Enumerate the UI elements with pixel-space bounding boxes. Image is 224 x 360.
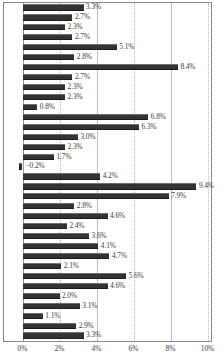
bar <box>23 183 197 189</box>
bar-value-label: 4.2% <box>103 171 118 181</box>
bar-value-label: 8.4% <box>180 62 195 72</box>
bar-row: 4.6% <box>4 212 211 222</box>
bar-value-label: 2.3% <box>68 92 83 102</box>
bar-value-label: 1.7% <box>56 152 71 162</box>
bar-value-label: 6.8% <box>151 112 166 122</box>
x-tick-label: 10% <box>201 344 215 353</box>
bar-value-label: 7.9% <box>171 191 186 201</box>
bar <box>23 134 79 140</box>
bar-row: 3.3% <box>4 3 211 13</box>
bar-value-label: 0.8% <box>40 102 55 112</box>
x-tick-label: 2% <box>55 344 65 353</box>
bar-row: 3.0% <box>4 132 211 142</box>
bar <box>23 64 178 70</box>
bar <box>23 263 62 269</box>
bar <box>23 193 169 199</box>
bar-rows: 3.3%2.7%2.3%2.7%5.1%2.8%8.4%2.7%2.3%2.3%… <box>4 3 211 341</box>
bar <box>23 4 84 10</box>
bar-value-label: 2.3% <box>68 22 83 32</box>
bar-value-label: 2.7% <box>75 12 90 22</box>
bar <box>23 14 73 20</box>
bar <box>23 213 108 219</box>
bar-row: 5.6% <box>4 271 211 281</box>
bar-row: 2.3% <box>4 142 211 152</box>
bar-value-label: 5.6% <box>129 271 144 281</box>
bar-row: 4.1% <box>4 242 211 252</box>
bar-row: 2.3% <box>4 23 211 33</box>
bar <box>23 94 66 100</box>
bar <box>23 173 101 179</box>
bar <box>23 332 84 338</box>
bar-value-label: 2.8% <box>77 201 92 211</box>
bar-value-label: 2.4% <box>69 221 84 231</box>
bar <box>23 114 149 120</box>
bar-value-label: 2.7% <box>75 32 90 42</box>
x-tick-label: 4% <box>92 344 102 353</box>
bar <box>23 223 67 229</box>
bar <box>23 84 66 90</box>
x-axis-tick-labels: 0%2%4%6%8%10% <box>0 344 224 360</box>
bar-row: 8.4% <box>4 63 211 73</box>
bar-value-label: 4.6% <box>110 281 125 291</box>
bar-row: 2.1% <box>4 261 211 271</box>
bar <box>23 243 99 249</box>
bar-row: 2.3% <box>4 92 211 102</box>
bar-value-label: 2.3% <box>68 82 83 92</box>
bar-value-label: 1.1% <box>45 311 60 321</box>
bar-value-label: 2.9% <box>79 321 94 331</box>
horizontal-bar-chart: 3.3%2.7%2.3%2.7%5.1%2.8%8.4%2.7%2.3%2.3%… <box>0 0 224 360</box>
bar <box>23 104 38 110</box>
bar-value-label: 3.1% <box>82 301 97 311</box>
bar <box>23 34 73 40</box>
bar-value-label: 2.3% <box>68 142 83 152</box>
bar-row: 2.8% <box>4 202 211 212</box>
bar-row: 2.3% <box>4 83 211 93</box>
bar-row: 2.4% <box>4 222 211 232</box>
bar-value-label: 3.0% <box>81 132 96 142</box>
bar-value-label: 9.4% <box>199 181 214 191</box>
bar <box>23 24 66 30</box>
bar <box>23 144 66 150</box>
bar-row: 3.3% <box>4 331 211 341</box>
bar-row: 0.8% <box>4 102 211 112</box>
bar-value-label: 2.0% <box>62 291 77 301</box>
bar-row: 2.7% <box>4 13 211 23</box>
bar-value-label: 6.3% <box>142 122 157 132</box>
bar <box>23 203 75 209</box>
bar <box>23 323 77 329</box>
bar-value-label: 3.6% <box>92 231 107 241</box>
bar-row: 6.3% <box>4 122 211 132</box>
bar-value-label: 2.8% <box>77 52 92 62</box>
bar-value-label: 5.1% <box>119 42 134 52</box>
bar-row: 6.8% <box>4 112 211 122</box>
bar <box>23 273 127 279</box>
plot-area: 3.3%2.7%2.3%2.7%5.1%2.8%8.4%2.7%2.3%2.3%… <box>3 2 212 342</box>
bar <box>19 163 23 169</box>
bar <box>23 54 75 60</box>
bar <box>23 44 117 50</box>
bar-row: 2.7% <box>4 33 211 43</box>
bar-row: 2.0% <box>4 291 211 301</box>
bar <box>23 313 43 319</box>
bar <box>23 253 110 259</box>
bar <box>23 283 108 289</box>
bar <box>23 293 60 299</box>
bar-row: 2.9% <box>4 321 211 331</box>
bar-row: 4.2% <box>4 172 211 182</box>
x-tick-label: 6% <box>129 344 139 353</box>
bar-value-label: 4.6% <box>110 211 125 221</box>
bar <box>23 233 90 239</box>
bar <box>23 74 73 80</box>
bar-row: 2.7% <box>4 73 211 83</box>
bar <box>23 303 80 309</box>
bar-value-label: 2.1% <box>64 261 79 271</box>
bar-row: 3.1% <box>4 301 211 311</box>
bar-value-label: 3.3% <box>86 330 101 340</box>
bar <box>23 124 140 130</box>
bar <box>23 154 54 160</box>
bar-row: 4.6% <box>4 281 211 291</box>
x-tick-label: 0% <box>18 344 28 353</box>
bar-row: 1.1% <box>4 311 211 321</box>
bar-row: 5.1% <box>4 43 211 53</box>
bar-row: 4.7% <box>4 252 211 262</box>
